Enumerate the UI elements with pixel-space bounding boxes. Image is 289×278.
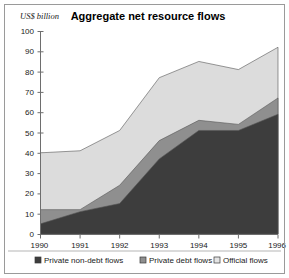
x-tick-label: 1991 [71,241,89,250]
legend-item: Official flows [214,256,268,265]
legend-swatch [35,257,41,263]
chart-legend: Private non-debt flowsPrivate debt flows… [35,256,268,265]
y-tick-label: 90 [25,47,34,56]
legend-label: Official flows [223,256,268,265]
x-tick-label: 1990 [31,241,49,250]
y-tick-label: 10 [25,210,34,219]
x-tick-label: 1993 [150,241,168,250]
legend-label: Private debt flows [149,256,212,265]
y-tick-label: 40 [25,149,34,158]
y-tick-label: 20 [25,189,34,198]
x-tick-label: 1996 [268,241,286,250]
legend-label: Private non-debt flows [44,256,123,265]
aggregate-net-resource-flows-chart: Aggregate net resource flows US$ billion… [0,0,289,278]
x-tick-label: 1992 [111,241,129,250]
x-tick-label: 1994 [190,241,208,250]
y-tick-label: 100 [21,27,35,36]
y-axis-label: US$ billion [20,11,59,21]
y-tick-label: 70 [25,88,34,97]
legend-swatch [214,257,220,263]
chart-title: Aggregate net resource flows [71,10,226,22]
legend-item: Private debt flows [140,256,212,265]
legend-swatch [140,257,146,263]
y-tick-label: 60 [25,108,34,117]
chart-figure: Aggregate net resource flows US$ billion… [0,0,289,278]
legend-item: Private non-debt flows [35,256,123,265]
x-tick-label: 1995 [230,241,248,250]
y-tick-label: 0 [30,230,35,239]
y-tick-label: 80 [25,68,34,77]
y-tick-label: 50 [25,129,34,138]
y-tick-label: 30 [25,169,34,178]
